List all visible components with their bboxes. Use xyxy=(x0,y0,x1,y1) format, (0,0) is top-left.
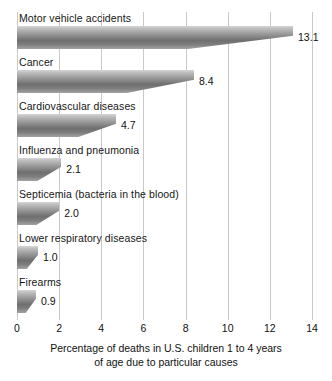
bar xyxy=(17,202,59,225)
bar-value-label: 2.0 xyxy=(64,207,79,220)
x-tick-label-6: 6 xyxy=(128,322,158,334)
x-tick-label-12: 12 xyxy=(255,322,285,334)
bar-category-label: Firearms xyxy=(19,276,61,289)
bar-value-label: 4.7 xyxy=(121,119,136,132)
bar-wrapper xyxy=(17,114,116,137)
bar-row: Motor vehicle accidents13.1 xyxy=(17,12,312,56)
bar-value-label: 8.4 xyxy=(199,75,214,88)
bar xyxy=(17,70,194,93)
bar xyxy=(17,158,61,181)
bar xyxy=(17,114,116,137)
gridline-14 xyxy=(312,12,313,320)
x-tick-label-0: 0 xyxy=(2,322,32,334)
bar-category-label: Cardiovascular diseases xyxy=(19,100,136,113)
bar-row: Septicemia (bacteria in the blood)2.0 xyxy=(17,188,312,232)
bar xyxy=(17,26,293,49)
bar-category-label: Septicemia (bacteria in the blood) xyxy=(19,188,179,201)
bar-wrapper xyxy=(17,70,194,93)
bar xyxy=(17,290,36,313)
x-axis-tick-labels: 02468101214 xyxy=(0,322,332,338)
bar-row: Cancer8.4 xyxy=(17,56,312,100)
x-tick-label-8: 8 xyxy=(171,322,201,334)
bar-category-label: Influenza and pneumonia xyxy=(19,144,139,157)
x-tick-label-10: 10 xyxy=(213,322,243,334)
x-axis-line xyxy=(17,320,312,321)
bar-category-label: Lower respiratory diseases xyxy=(19,232,147,245)
bar-wrapper xyxy=(17,202,59,225)
bar-chart: Motor vehicle accidents13.1Cancer8.4Card… xyxy=(0,0,332,381)
x-tick-label-14: 14 xyxy=(297,322,327,334)
bar-category-label: Cancer xyxy=(19,56,53,69)
x-tick-label-4: 4 xyxy=(86,322,116,334)
bar-row: Cardiovascular diseases4.7 xyxy=(17,100,312,144)
x-tick-label-2: 2 xyxy=(44,322,74,334)
bar-row: Firearms0.9 xyxy=(17,276,312,320)
bar xyxy=(17,246,38,269)
x-axis-caption: Percentage of deaths in U.S. children 1 … xyxy=(0,341,332,369)
bar-wrapper xyxy=(17,290,36,313)
plot-area: Motor vehicle accidents13.1Cancer8.4Card… xyxy=(17,12,312,320)
bar-value-label: 0.9 xyxy=(41,295,56,308)
bar-category-label: Motor vehicle accidents xyxy=(19,12,131,25)
bar-rows: Motor vehicle accidents13.1Cancer8.4Card… xyxy=(17,12,312,320)
x-axis-caption-line-1: Percentage of deaths in U.S. children 1 … xyxy=(0,341,332,355)
bar-wrapper xyxy=(17,158,61,181)
x-axis-caption-line-2: of age due to particular causes xyxy=(0,355,332,369)
bar-row: Influenza and pneumonia2.1 xyxy=(17,144,312,188)
bar-wrapper xyxy=(17,26,293,49)
bar-value-label: 1.0 xyxy=(43,251,58,264)
bar-row: Lower respiratory diseases1.0 xyxy=(17,232,312,276)
bar-value-label: 2.1 xyxy=(66,163,81,176)
bar-value-label: 13.1 xyxy=(298,31,318,44)
bar-wrapper xyxy=(17,246,38,269)
